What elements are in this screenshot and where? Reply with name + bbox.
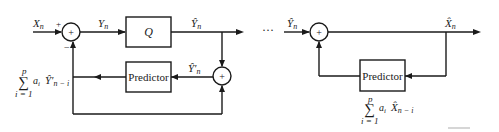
arrowhead-icon: [316, 41, 322, 48]
quantized-label: Ŷn: [191, 17, 201, 31]
decoder-input-label: Ŷn: [287, 17, 297, 31]
ellipsis: ···: [262, 23, 274, 37]
arrowhead-icon: [55, 29, 62, 35]
svg-text:i = 1: i = 1: [15, 89, 33, 99]
arrowhead-icon: [405, 73, 412, 79]
svg-text:ai: ai: [379, 102, 386, 115]
input-label: Xn: [32, 17, 44, 31]
svg-text:Ŷ′n − i: Ŷ′n − i: [45, 74, 69, 88]
arrowhead-icon: [219, 60, 225, 67]
reconstructed-label: Ŷ′n: [188, 62, 201, 76]
summer-symbol: +: [219, 71, 225, 82]
encoder-prediction-formula: p ∑ i = 1 ai Ŷ′n − i: [15, 66, 69, 99]
arrowhead-icon: [236, 29, 244, 35]
svg-text:ai: ai: [33, 75, 40, 88]
plus-sign: +: [56, 19, 61, 29]
quantizer-label: Q: [144, 25, 153, 39]
arrowhead-icon: [70, 41, 76, 48]
svg-text:X̂n − i: X̂n − i: [390, 101, 413, 115]
encoder: Xn + − + Yn Q Ŷn + Ŷ′n Predictor: [15, 17, 244, 114]
error-label: Yn: [98, 17, 108, 31]
arrowhead-icon: [302, 29, 310, 35]
svg-text:i = 1: i = 1: [361, 116, 379, 126]
arrowhead-icon: [94, 74, 101, 80]
decoder-output-label: X̂n: [444, 17, 456, 31]
arrowhead-icon: [473, 29, 481, 35]
predictor-label: Predictor: [362, 70, 403, 82]
arrowhead-icon: [219, 85, 225, 92]
predictor-label: Predictor: [128, 71, 169, 83]
decoder: Ŷn + X̂n Predictor p ∑ i = 1 ai X̂n − i: [284, 17, 481, 126]
dpcm-diagram: Xn + − + Yn Q Ŷn + Ŷ′n Predictor: [0, 0, 499, 132]
summer-symbol: +: [68, 27, 74, 38]
minus-sign: −: [64, 42, 70, 53]
summer-symbol: +: [316, 27, 322, 38]
decoder-prediction-formula: p ∑ i = 1 ai X̂n − i: [361, 94, 413, 126]
arrowhead-icon: [118, 29, 126, 35]
arrowhead-icon: [171, 74, 178, 80]
